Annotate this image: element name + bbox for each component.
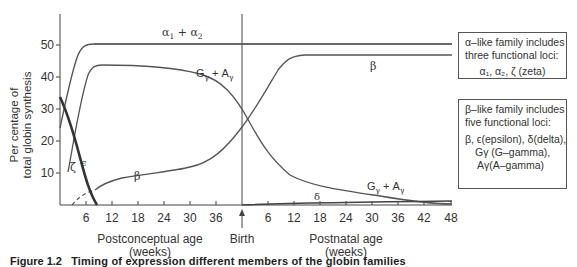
x-tick-label: 36 bbox=[209, 211, 223, 225]
label-beta-prenatal: β bbox=[134, 170, 140, 183]
x-tick-label: 6 bbox=[83, 211, 90, 225]
x-tick-labels-postnatal: 6 12 18 24 30 36 42 48 bbox=[265, 211, 458, 225]
figure-caption: Figure 1.2 Timing of expression differen… bbox=[10, 255, 406, 267]
y-tick-labels: 50 40 30 20 10 bbox=[41, 38, 55, 180]
x-tick-label: 42 bbox=[417, 211, 431, 225]
y-tick-label: 40 bbox=[41, 70, 55, 84]
x-axis-label-prenatal: Postconceptual age bbox=[97, 232, 203, 246]
alpha-box-line1: α–like family includes bbox=[465, 36, 560, 49]
beta-family-box: β–like family includes five functional l… bbox=[458, 99, 567, 189]
y-axis-label: Per centage of total globin synthesis bbox=[8, 71, 33, 178]
beta-box-line3: β, ϵ(epsilon), δ(delta), bbox=[465, 133, 560, 146]
figure-caption-text: Timing of expression different members o… bbox=[71, 255, 406, 267]
alpha-family-box: α–like family includes three functional … bbox=[458, 32, 567, 79]
label-delta: δ bbox=[314, 191, 320, 202]
alpha-box-line3: α₁, α₂, ζ (zeta) bbox=[465, 65, 560, 78]
series-alpha1-alpha2 bbox=[60, 44, 452, 128]
label-epsilon: ϵ bbox=[81, 157, 87, 168]
beta-box-line4: Gγ (G–gamma), bbox=[465, 146, 560, 159]
beta-box-line5: Aγ(A–gamma) bbox=[465, 159, 560, 172]
birth-label: Birth bbox=[230, 232, 255, 246]
label-beta-postnatal: β bbox=[370, 60, 376, 73]
x-tick-label: 18 bbox=[131, 211, 145, 225]
series-delta bbox=[242, 201, 452, 205]
x-tick-label: 48 bbox=[444, 211, 458, 225]
x-tick-label: 12 bbox=[105, 211, 119, 225]
label-alpha: α1 + α2 bbox=[162, 26, 203, 41]
x-tick-label: 24 bbox=[157, 211, 171, 225]
beta-box-line2: five functional loci: bbox=[465, 116, 560, 129]
x-tick-label: 36 bbox=[391, 211, 405, 225]
series-beta bbox=[95, 55, 452, 190]
alpha-box-line2: three functional loci: bbox=[465, 49, 560, 62]
beta-box-line1: β–like family includes bbox=[465, 103, 560, 116]
label-zeta: ζ bbox=[70, 161, 76, 174]
label-ggamma-agamma-postnatal: Gγ + Aγ bbox=[367, 180, 405, 195]
x-axis-label-postnatal: Postnatal age bbox=[309, 232, 383, 246]
x-tick-label: 30 bbox=[365, 211, 379, 225]
figure-caption-label: Figure 1.2 bbox=[10, 255, 62, 267]
birth-arrow-icon bbox=[239, 209, 245, 228]
y-axis-label-line2: total globin synthesis bbox=[21, 71, 33, 178]
x-ticks-prenatal bbox=[86, 201, 216, 205]
y-ticks bbox=[56, 45, 60, 173]
x-tick-label: 24 bbox=[339, 211, 353, 225]
y-axis-label-line1: Per centage of bbox=[8, 87, 20, 163]
y-tick-label: 30 bbox=[41, 102, 55, 116]
y-tick-label: 10 bbox=[41, 166, 55, 180]
x-tick-label: 6 bbox=[265, 211, 272, 225]
y-tick-label: 20 bbox=[41, 134, 55, 148]
x-tick-label: 30 bbox=[183, 211, 197, 225]
x-tick-labels-prenatal: 6 12 18 24 30 36 bbox=[83, 211, 223, 225]
x-tick-label: 18 bbox=[313, 211, 327, 225]
x-tick-label: 12 bbox=[287, 211, 301, 225]
y-tick-label: 50 bbox=[41, 38, 55, 52]
